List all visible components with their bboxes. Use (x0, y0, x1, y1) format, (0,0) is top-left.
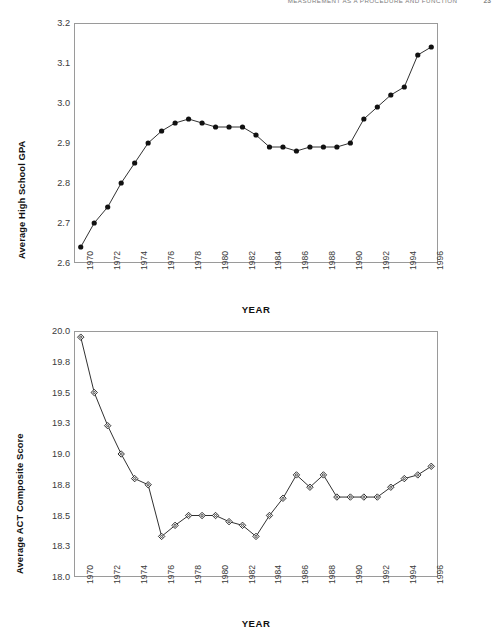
data-point-marker (240, 124, 245, 129)
x-tick-label: 1974 (139, 251, 149, 270)
data-point-marker (347, 494, 353, 500)
data-series-act (0, 322, 499, 634)
x-tick-label: 1984 (273, 251, 283, 270)
data-point-marker (388, 484, 394, 490)
x-tick-label: 1992 (381, 565, 391, 584)
x-tick-label: 1976 (166, 565, 176, 584)
data-point-marker (253, 132, 258, 137)
data-point-marker (78, 334, 84, 340)
x-tick-label: 1970 (85, 251, 95, 270)
data-point-marker (118, 451, 124, 457)
data-point-marker (185, 512, 191, 518)
x-axis-title-act: YEAR (74, 618, 438, 629)
data-point-marker (92, 220, 97, 225)
data-point-marker (294, 148, 299, 153)
data-point-marker (415, 472, 421, 478)
data-point-marker (388, 92, 393, 97)
data-point-marker (105, 204, 110, 209)
data-point-marker (159, 128, 164, 133)
data-point-marker (145, 482, 151, 488)
data-point-marker (361, 494, 367, 500)
x-tick-label: 1996 (435, 565, 445, 584)
x-tick-label: 1978 (193, 565, 203, 584)
data-point-marker (186, 116, 191, 121)
x-tick-label: 1980 (220, 565, 230, 584)
data-point-marker (91, 389, 97, 395)
x-tick-label: 1978 (193, 251, 203, 270)
data-point-marker (374, 494, 380, 500)
page-number: 23 (483, 0, 491, 4)
x-tick-label: 1996 (435, 251, 445, 270)
data-point-marker (267, 144, 272, 149)
data-point-marker (361, 116, 366, 121)
data-point-marker (429, 44, 434, 49)
x-tick-label: 1970 (85, 565, 95, 584)
x-tick-label: 1986 (300, 565, 310, 584)
data-point-marker (334, 144, 339, 149)
x-tick-label: 1972 (112, 251, 122, 270)
data-point-marker (307, 144, 312, 149)
data-point-marker (105, 423, 111, 429)
x-tick-label: 1982 (247, 251, 257, 270)
data-point-marker (415, 52, 420, 57)
x-tick-label: 1986 (300, 251, 310, 270)
data-point-marker (132, 160, 137, 165)
x-tick-label: 1994 (408, 565, 418, 584)
data-point-marker (348, 140, 353, 145)
x-tick-label: 1990 (354, 251, 364, 270)
x-tick-label: 1982 (247, 565, 257, 584)
x-tick-label: 1972 (112, 565, 122, 584)
x-tick-label: 1988 (327, 251, 337, 270)
data-point-marker (226, 518, 232, 524)
data-point-marker (146, 140, 151, 145)
running-head: MEASUREMENT AS A PROCEDURE AND FUNCTION … (0, 0, 499, 9)
x-axis-title-gpa: YEAR (74, 304, 438, 315)
series-line (81, 47, 432, 247)
x-tick-label: 1974 (139, 565, 149, 584)
data-point-marker (402, 84, 407, 89)
data-point-marker (212, 512, 218, 518)
x-tick-label: 1976 (166, 251, 176, 270)
data-point-marker (213, 124, 218, 129)
data-series-gpa (0, 14, 499, 323)
data-point-marker (226, 124, 231, 129)
data-point-marker (131, 475, 137, 481)
data-point-marker (334, 494, 340, 500)
x-tick-label: 1992 (381, 251, 391, 270)
x-tick-label: 1994 (408, 251, 418, 270)
data-point-marker (428, 463, 434, 469)
data-point-marker (199, 512, 205, 518)
data-point-marker (119, 180, 124, 185)
x-tick-label: 1984 (273, 565, 283, 584)
x-tick-label: 1990 (354, 565, 364, 584)
data-point-marker (78, 244, 83, 249)
data-point-marker (321, 144, 326, 149)
data-point-marker (280, 144, 285, 149)
series-line (81, 337, 432, 536)
x-tick-label: 1988 (327, 565, 337, 584)
data-point-marker (199, 120, 204, 125)
data-point-marker (173, 120, 178, 125)
running-head-title: MEASUREMENT AS A PROCEDURE AND FUNCTION (288, 0, 458, 4)
data-point-marker (375, 104, 380, 109)
x-tick-label: 1980 (220, 251, 230, 270)
data-point-marker (401, 475, 407, 481)
